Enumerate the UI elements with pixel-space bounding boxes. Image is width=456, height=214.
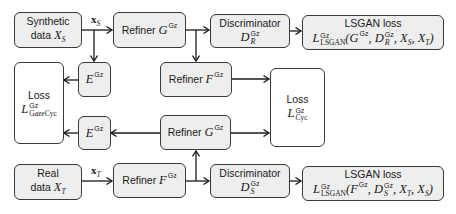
refiner-g-top-label: Refiner GGz [122,22,178,39]
loss-cyc-math: L [287,106,294,120]
lsgan-bottom-title: LSGAN loss [344,168,401,181]
lsgan-top-arg4: , X [411,31,425,45]
encoder-bottom-sup: Gz [94,125,103,132]
refiner-g-bottom-math: G [204,125,213,139]
lsgan-top-title: LSGAN loss [344,17,401,30]
xt-edge-label: xT [91,164,101,179]
lsgan-top-math: L [312,31,319,45]
loss-gazecyc-title: Loss [28,89,50,102]
discriminator-s-node: Discriminator DGzS [210,164,290,198]
lsgan-top-formula: LGzLSGAN(GGz, DGzR, XS, XT) [312,30,433,47]
encoder-top-math: E [86,72,94,86]
refiner-f-mid-label: Refiner FGz [169,71,223,88]
refiner-f-mid-text: Refiner [169,73,206,85]
loss-cyc-sub: Cyc [295,114,307,121]
loss-gazecyc-math: L [21,102,28,116]
refiner-g-bottom-label: Refiner GGz [168,124,224,141]
loss-gazecyc-node: Loss LGzGazeCyc [14,62,64,144]
real-data-label: Real [37,167,59,180]
lsgan-bottom-sub: LSGAN [321,190,346,197]
refiner-g-top-text: Refiner [122,24,159,36]
refiner-f-mid-sup: Gz [214,71,223,78]
encoder-bottom-label: EGz [86,125,104,142]
lsgan-bottom-formula: LGzLSGAN(FGz, DGzS, XT, XS) [313,181,433,198]
lsgan-top-sub: LSGAN [320,39,345,46]
refiner-g-top-sup: Gz [168,22,177,29]
real-data-sub: T [61,187,65,196]
refiner-f-bottom-sup: Gz [168,172,177,179]
real-data-node: Real data XT [14,164,82,200]
synthetic-data-sub: S [62,35,66,44]
encoder-top-node: EGz [78,62,111,97]
lsgan-bottom-arg4: , X [411,182,425,196]
encoder-bottom-math: E [86,126,94,140]
refiner-f-mid-node: Refiner FGz [160,62,232,97]
discriminator-s-title: Discriminator [219,167,280,180]
refiner-f-bottom-node: Refiner FGz [113,163,186,198]
refiner-g-bottom-node: Refiner GGz [160,115,231,150]
xs-edge-label: xS [91,13,100,28]
synthetic-data-text: data [31,29,54,41]
lsgan-loss-bottom-node: LSGAN loss LGzLSGAN(FGz, DGzS, XT, XS) [302,166,444,201]
synthetic-data-node: Synthetic data XS [14,12,82,48]
xt-sub: T [97,170,101,179]
loss-gazecyc-symbol: LGzGazeCyc [21,102,56,118]
discriminator-r-symbol: DGzR [241,30,260,46]
discriminator-s-sub: S [251,188,260,196]
loss-gazecyc-sub: GazeCyc [29,110,56,117]
synthetic-data-math: X [54,28,62,42]
loss-cyc-symbol: LGzCyc [287,106,307,122]
discriminator-s-symbol: DGzS [241,180,260,196]
lsgan-top-arg1: (G [345,31,358,45]
discriminator-r-sub: R [251,38,260,46]
lsgan-bottom-arg3: , X [393,182,407,196]
refiner-g-bottom-text: Refiner [168,126,205,138]
lsgan-bottom-arg1-sup: Gz [359,181,368,188]
lsgan-top-arg2: , D [369,31,384,45]
lsgan-bottom-arg2-sub: S [384,190,393,198]
xs-sub: S [97,19,101,28]
lsgan-top-close: ) [429,31,433,45]
discriminator-s-math: D [241,180,250,194]
lsgan-bottom-arg2: , D [368,182,383,196]
lsgan-top-arg1-sup: Gz [360,30,369,37]
refiner-g-top-math: G [158,23,167,37]
synthetic-data-label: Synthetic [26,15,69,28]
encoder-bottom-node: EGz [78,116,111,150]
refiner-f-bottom-math: F [159,173,167,187]
lsgan-top-arg2-sub: R [385,39,394,47]
lsgan-bottom-close: ) [429,182,433,196]
real-data-symbol-line: data XT [30,180,65,196]
discriminator-r-math: D [241,30,250,44]
refiner-g-top-node: Refiner GGz [113,12,186,48]
synthetic-data-symbol-line: data XS [31,28,66,44]
lsgan-bottom-arg1: (F [346,182,358,196]
encoder-top-label: EGz [86,71,104,88]
loss-cyc-node: Loss LGzCyc [270,68,325,147]
refiner-f-bottom-text: Refiner [122,174,159,186]
refiner-g-bottom-sup: Gz [214,124,223,131]
lsgan-top-arg3: , X [394,31,408,45]
real-data-text: data [30,181,53,193]
refiner-f-mid-math: F [206,72,214,86]
refiner-f-bottom-label: Refiner FGz [122,172,176,189]
loss-cyc-title: Loss [286,93,308,106]
encoder-top-sup: Gz [94,71,103,78]
lsgan-loss-top-node: LSGAN loss LGzLSGAN(GGz, DGzR, XS, XT) [302,15,444,50]
lsgan-bottom-math: L [313,182,320,196]
discriminator-r-title: Discriminator [219,17,280,30]
discriminator-r-node: Discriminator DGzR [210,14,290,48]
